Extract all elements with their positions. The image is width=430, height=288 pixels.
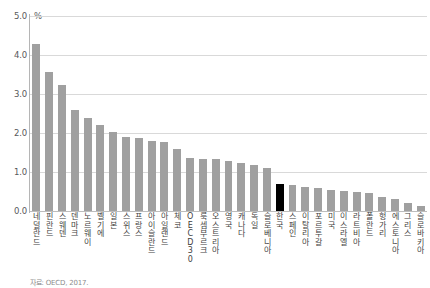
x-axis-category-label: OECD30 — [184, 213, 197, 265]
bar-slot[interactable] — [84, 16, 92, 211]
bar-slot[interactable] — [378, 16, 386, 211]
x-axis-category-label: 독일 — [248, 213, 261, 230]
bar-slot[interactable] — [353, 16, 361, 211]
bar-slot[interactable] — [250, 16, 258, 211]
bar-slot[interactable] — [199, 16, 207, 211]
bar-slot[interactable] — [225, 16, 233, 211]
bar[interactable] — [109, 132, 117, 211]
x-axis-category-label: 스위스 — [120, 213, 133, 239]
x-axis-category-label: 룩셈부르크 — [196, 213, 209, 256]
bar-slot[interactable] — [327, 16, 335, 211]
y-axis-tick-label: 5.0 — [1, 11, 27, 21]
x-axis-category-label: 이스라엘 — [337, 213, 350, 247]
bar-slot[interactable] — [301, 16, 309, 211]
bar[interactable] — [122, 137, 130, 211]
bar[interactable] — [96, 125, 104, 211]
bar-chart: % 5.04.03.02.01.00.0 네덜란드핀란드스웨덴덴마크노르웨이벨기… — [0, 0, 430, 288]
bar[interactable] — [186, 158, 194, 211]
bar-slot[interactable] — [148, 16, 156, 211]
bar[interactable] — [225, 161, 233, 211]
bar-slot[interactable] — [32, 16, 40, 211]
x-axis-category-label: 라트비아 — [350, 213, 363, 247]
x-axis-category-label: 한국 — [273, 213, 286, 230]
x-axis-category-label: 포르투갈 — [312, 213, 325, 247]
bar[interactable] — [212, 159, 220, 211]
x-axis-category-label: 덴마크 — [68, 213, 81, 239]
x-axis-category-label: 오스트리아 — [209, 213, 222, 256]
x-axis-category-label: 미국 — [325, 213, 338, 230]
bar[interactable] — [199, 159, 207, 211]
x-axis-category-label: 스웨덴 — [56, 213, 69, 239]
bar[interactable] — [404, 203, 412, 211]
x-axis-category-label: 아일랜드 — [158, 213, 171, 247]
y-axis-tick-label: 1.0 — [1, 167, 27, 177]
bar[interactable] — [327, 190, 335, 211]
bar[interactable] — [58, 85, 66, 211]
bar[interactable] — [45, 72, 53, 211]
bar-slot[interactable] — [58, 16, 66, 211]
y-axis-tick-label: 0.0 — [1, 206, 27, 216]
x-axis-category-label: 헝가리 — [376, 213, 389, 239]
bar-slot[interactable] — [404, 16, 412, 211]
bar[interactable] — [314, 188, 322, 211]
bar[interactable] — [237, 163, 245, 211]
x-axis-category-label: 폴란드 — [363, 213, 376, 239]
bar[interactable] — [71, 110, 79, 211]
bar[interactable] — [417, 206, 425, 211]
bar-slot[interactable] — [71, 16, 79, 211]
x-axis-category-label: 슬로바키아 — [414, 213, 427, 256]
bar[interactable] — [353, 192, 361, 211]
bar-slot[interactable] — [173, 16, 181, 211]
x-axis-category-label: 영국 — [222, 213, 235, 230]
bar[interactable] — [276, 184, 284, 211]
bar-slot[interactable] — [237, 16, 245, 211]
bar-slot[interactable] — [122, 16, 130, 211]
bar[interactable] — [378, 197, 386, 211]
bar[interactable] — [160, 142, 168, 211]
bar-slot[interactable] — [417, 16, 425, 211]
bar[interactable] — [365, 193, 373, 211]
x-axis-category-label: 아이슬란드 — [145, 213, 158, 256]
bar-slot[interactable] — [186, 16, 194, 211]
y-axis-tick-label: 3.0 — [1, 89, 27, 99]
bar-slot[interactable] — [314, 16, 322, 211]
chart-footnote: 자료: OECD, 2017. — [30, 277, 88, 287]
x-axis-category-label: 벨기에 — [94, 213, 107, 239]
bar[interactable] — [301, 187, 309, 211]
bar[interactable] — [391, 199, 399, 211]
bar-slot[interactable] — [45, 16, 53, 211]
bar[interactable] — [250, 165, 258, 211]
bar[interactable] — [263, 168, 271, 211]
bar-slot[interactable] — [391, 16, 399, 211]
y-axis-tick-label: 2.0 — [1, 128, 27, 138]
bar-slot[interactable] — [289, 16, 297, 211]
bar-series — [30, 16, 427, 211]
bar-slot[interactable] — [340, 16, 348, 211]
x-axis-category-label: 핀란드 — [43, 213, 56, 239]
bar[interactable] — [148, 141, 156, 211]
bar-slot[interactable] — [212, 16, 220, 211]
bar[interactable] — [173, 149, 181, 211]
bar-slot[interactable] — [365, 16, 373, 211]
bar[interactable] — [340, 191, 348, 211]
x-axis-category-label: 슬로베니아 — [261, 213, 274, 256]
bar[interactable] — [289, 185, 297, 211]
bar-slot[interactable] — [135, 16, 143, 211]
x-axis-category-label: 체코 — [171, 213, 184, 230]
bar[interactable] — [84, 118, 92, 211]
bar[interactable] — [135, 138, 143, 211]
bar-slot[interactable] — [109, 16, 117, 211]
x-axis-category-label: 프랑스 — [132, 213, 145, 239]
bar-slot[interactable] — [276, 16, 284, 211]
bar-slot[interactable] — [160, 16, 168, 211]
bar-slot[interactable] — [263, 16, 271, 211]
bar[interactable] — [32, 44, 40, 211]
x-axis-category-labels: 네덜란드핀란드스웨덴덴마크노르웨이벨기에일본스위스프랑스아이슬란드아일랜드체코O… — [30, 213, 427, 275]
x-axis-category-label: 노르웨이 — [81, 213, 94, 247]
x-axis-category-label: 스페인 — [286, 213, 299, 239]
x-axis-category-label: 에스토니아 — [389, 213, 402, 256]
x-axis-category-label: 이탈리아 — [299, 213, 312, 247]
bar-slot[interactable] — [96, 16, 104, 211]
x-axis-category-label: 일본 — [107, 213, 120, 230]
x-axis-category-label: 캐나다 — [235, 213, 248, 239]
